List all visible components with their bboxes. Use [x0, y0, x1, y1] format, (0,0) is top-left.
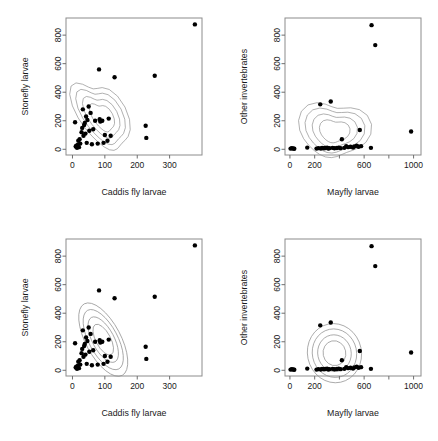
data-point: [359, 144, 363, 148]
y-tick-label: 200: [272, 113, 282, 127]
data-point: [81, 328, 85, 332]
data-point: [101, 141, 105, 145]
x-tick-label: 100: [98, 381, 112, 391]
y-tick-label: 600: [53, 277, 63, 291]
x-tick-label: 0: [288, 381, 293, 391]
plot-frame: [285, 18, 421, 155]
x-tick-label: 300: [163, 160, 177, 170]
data-point: [91, 127, 95, 131]
data-point: [105, 360, 109, 364]
data-point: [369, 23, 373, 27]
data-point: [373, 43, 377, 47]
data-point: [83, 131, 87, 135]
y-tick-label: 800: [272, 28, 282, 42]
plot-bottom-right: 020060010000200400600800Mayfly larvaeOth…: [219, 221, 438, 441]
y-tick-label: 400: [53, 306, 63, 320]
data-point: [193, 243, 197, 247]
y-tick-label: 600: [272, 56, 282, 70]
data-points: [73, 243, 197, 371]
y-axis-label: Other invertebrates: [239, 269, 249, 345]
data-point: [91, 348, 95, 352]
y-tick-label: 200: [53, 334, 63, 348]
data-point: [318, 323, 322, 327]
data-point: [107, 337, 111, 341]
data-points: [73, 22, 197, 150]
x-tick-label: 1000: [404, 160, 423, 170]
density-contours: [69, 296, 138, 384]
y-tick-label: 800: [272, 249, 282, 263]
x-tick-label: 0: [70, 381, 75, 391]
y-tick-label: 200: [272, 334, 282, 348]
data-point: [358, 349, 362, 353]
data-point: [90, 142, 94, 146]
y-tick-label: 0: [272, 147, 282, 152]
data-point: [318, 102, 322, 106]
data-point: [100, 119, 104, 123]
data-point: [101, 362, 105, 366]
x-axis-label: Caddis fly larvae: [101, 187, 166, 197]
x-tick-label: 300: [163, 381, 177, 391]
figure-canvas: 01002003000200400600800Caddis fly larvae…: [0, 0, 438, 441]
x-tick-label: 0: [70, 160, 75, 170]
y-axis-label: Stonefly larvae: [20, 57, 30, 115]
x-axis-label: Mayfly larvae: [327, 408, 379, 418]
data-point: [143, 124, 147, 128]
data-point: [85, 141, 89, 145]
data-point: [305, 145, 309, 149]
data-point: [73, 341, 77, 345]
data-point: [93, 119, 97, 123]
data-point: [88, 332, 92, 336]
data-point: [85, 118, 89, 122]
data-point: [96, 362, 100, 366]
data-point: [144, 357, 148, 361]
data-point: [87, 129, 91, 133]
plot-frame: [285, 239, 421, 376]
x-tick-label: 100: [98, 160, 112, 170]
data-point: [78, 141, 82, 145]
x-tick-label: 600: [357, 381, 371, 391]
y-tick-label: 400: [272, 306, 282, 320]
x-tick-label: 200: [308, 160, 322, 170]
y-axis-label: Stonefly larvae: [20, 278, 30, 336]
data-point: [85, 362, 89, 366]
data-point: [340, 358, 344, 362]
x-axis-label: Mayfly larvae: [327, 187, 379, 197]
data-point: [340, 137, 344, 141]
data-point: [77, 137, 81, 141]
x-axis-label: Caddis fly larvae: [101, 408, 166, 418]
data-point: [86, 325, 90, 329]
panel-top-right: 020060010000200400600800Mayfly larvaeOth…: [219, 0, 438, 220]
data-point: [409, 350, 413, 354]
data-point: [409, 129, 413, 133]
y-tick-label: 600: [53, 56, 63, 70]
plot-top-right: 020060010000200400600800Mayfly larvaeOth…: [219, 0, 438, 220]
data-point: [88, 111, 92, 115]
data-point: [108, 134, 112, 138]
data-point: [359, 365, 363, 369]
data-point: [100, 340, 104, 344]
data-point: [329, 320, 333, 324]
panel-bottom-right: 020060010000200400600800Mayfly larvaeOth…: [219, 221, 438, 441]
data-point: [78, 362, 82, 366]
data-point: [153, 295, 157, 299]
y-tick-label: 0: [53, 368, 63, 373]
data-point: [292, 147, 296, 151]
data-point: [81, 107, 85, 111]
y-tick-label: 400: [272, 85, 282, 99]
data-point: [369, 367, 373, 371]
data-point: [90, 363, 94, 367]
data-point: [103, 133, 107, 137]
y-axis-label: Other invertebrates: [239, 48, 249, 124]
data-point: [193, 22, 197, 26]
y-tick-label: 800: [53, 28, 63, 42]
data-point: [103, 354, 107, 358]
data-point: [83, 352, 87, 356]
data-point: [105, 139, 109, 143]
x-tick-label: 0: [288, 160, 293, 170]
data-point: [107, 116, 111, 120]
data-point: [144, 136, 148, 140]
data-point: [292, 368, 296, 372]
y-tick-label: 400: [53, 85, 63, 99]
y-tick-label: 600: [272, 277, 282, 291]
data-point: [329, 99, 333, 103]
